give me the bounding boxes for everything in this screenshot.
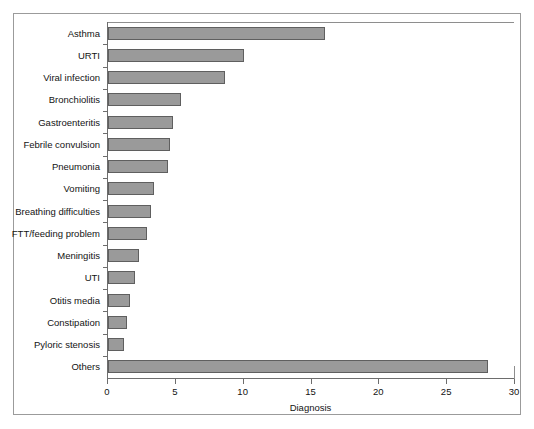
bar-row: Others: [107, 356, 514, 378]
x-tick: [311, 379, 312, 384]
category-label: Pyloric stenosis: [34, 338, 100, 351]
category-label: Meningitis: [57, 249, 100, 262]
bar: [108, 138, 170, 151]
category-label: Febrile convulsion: [23, 138, 100, 151]
category-label: Otitis media: [50, 294, 100, 307]
x-tick: [378, 379, 379, 384]
bar: [108, 360, 488, 373]
category-label: Vomiting: [64, 182, 100, 195]
x-tick-label: 20: [373, 386, 384, 398]
x-tick-label: 5: [172, 386, 177, 398]
bar-row: Breathing difficulties: [107, 200, 514, 222]
category-tick: [103, 267, 107, 268]
bar: [108, 49, 244, 62]
bar: [108, 27, 325, 40]
category-label: Breathing difficulties: [15, 205, 100, 218]
category-tick: [103, 67, 107, 68]
category-label: Gastroenteritis: [38, 116, 100, 129]
x-axis-end-tick: [514, 366, 515, 379]
x-axis-title: Diagnosis: [107, 402, 514, 413]
x-tick: [175, 379, 176, 384]
bar: [108, 93, 181, 106]
x-tick-label: 10: [237, 386, 248, 398]
bar-row: Constipation: [107, 311, 514, 333]
bar-row: Vomiting: [107, 178, 514, 200]
bar-row: Asthma: [107, 22, 514, 44]
category-tick: [103, 334, 107, 335]
bar: [108, 316, 127, 329]
plot-area: AsthmaURTIViral infectionBronchiolitisGa…: [107, 22, 514, 378]
bar-row: Gastroenteritis: [107, 111, 514, 133]
bar: [108, 227, 147, 240]
x-tick-label: 25: [441, 386, 452, 398]
bar-row: Pneumonia: [107, 156, 514, 178]
bar-row: Febrile convulsion: [107, 133, 514, 155]
category-tick: [103, 44, 107, 45]
x-tick-label: 30: [509, 386, 520, 398]
category-label: URTI: [78, 49, 100, 62]
bar: [108, 160, 168, 173]
bar: [108, 271, 135, 284]
x-tick: [243, 379, 244, 384]
x-tick-label: 0: [104, 386, 109, 398]
figure: AsthmaURTIViral infectionBronchiolitisGa…: [0, 0, 534, 429]
category-tick: [103, 356, 107, 357]
bar: [108, 71, 225, 84]
x-tick: [514, 379, 515, 384]
bar: [108, 116, 173, 129]
category-label: Others: [71, 360, 100, 373]
category-label: FTT/feeding problem: [12, 227, 100, 240]
bar-row: Bronchiolitis: [107, 89, 514, 111]
x-tick: [446, 379, 447, 384]
category-label: Pneumonia: [52, 160, 100, 173]
x-tick: [107, 379, 108, 384]
bar-row: Otitis media: [107, 289, 514, 311]
bar: [108, 294, 130, 307]
bar-row: Viral infection: [107, 67, 514, 89]
category-label: Viral infection: [43, 71, 100, 84]
category-tick: [103, 156, 107, 157]
category-tick: [103, 245, 107, 246]
category-tick: [103, 111, 107, 112]
category-tick: [103, 311, 107, 312]
category-tick: [103, 289, 107, 290]
category-label: Constipation: [47, 316, 100, 329]
bar: [108, 338, 124, 351]
bar: [108, 182, 154, 195]
category-tick: [103, 89, 107, 90]
category-tick: [103, 133, 107, 134]
category-tick: [103, 222, 107, 223]
x-tick-label: 15: [305, 386, 316, 398]
bar: [108, 205, 151, 218]
bar-row: FTT/feeding problem: [107, 222, 514, 244]
bar-row: Meningitis: [107, 245, 514, 267]
category-label: UTI: [85, 271, 100, 284]
bar: [108, 249, 139, 262]
category-tick: [103, 178, 107, 179]
category-label: Asthma: [68, 27, 100, 40]
category-label: Bronchiolitis: [49, 93, 100, 106]
category-tick: [103, 200, 107, 201]
bar-row: URTI: [107, 44, 514, 66]
bar-row: UTI: [107, 267, 514, 289]
bar-row: Pyloric stenosis: [107, 334, 514, 356]
